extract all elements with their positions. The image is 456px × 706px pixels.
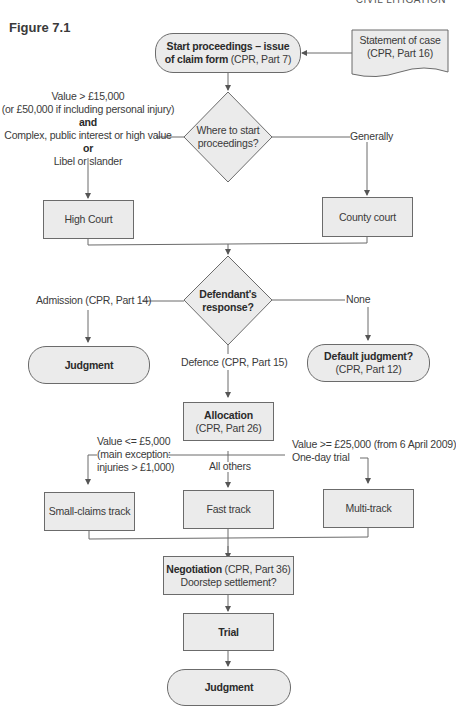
final-judgment-label: Judgment <box>205 681 254 694</box>
negotiation-title: Negotiation <box>166 563 222 575</box>
generally-label: Generally <box>350 130 393 143</box>
small-criteria-line2: (main exception: <box>97 448 174 461</box>
small-criteria-line1: Value <= £5,000 <box>97 435 174 448</box>
county-court-label: County court <box>339 211 396 224</box>
trial-label: Trial <box>218 626 239 639</box>
criteria-line3: Complex, public interest or high value <box>0 129 176 142</box>
defendant-line2: response? <box>184 301 272 314</box>
high-court-criteria-label: Value > £15,000 (or £50,000 if including… <box>0 90 176 168</box>
start-bold-2: of claim form <box>165 53 228 65</box>
default-judgment-node: Default judgment? (CPR, Part 12) <box>307 344 430 382</box>
allocation-ref: (CPR, Part 26) <box>195 422 261 435</box>
judgment-left-label: Judgment <box>65 359 114 372</box>
defence-label: Defence (CPR, Part 15) <box>181 356 287 369</box>
start-proceedings-node: Start proceedings – issue of claim form … <box>155 33 301 73</box>
allocation-node: Allocation (CPR, Part 26) <box>183 402 274 441</box>
high-court-node: High Court <box>43 200 134 239</box>
defendant-line1: Defendant's <box>184 288 272 301</box>
admission-label: Admission (CPR, Part 14) <box>36 294 151 307</box>
fast-track-node: Fast track <box>183 490 274 529</box>
negotiation-line2: Doorstep settlement? <box>181 576 277 589</box>
statement-of-case-node: Statement of case (CPR, Part 16) <box>352 34 448 60</box>
small-claims-track-node: Small-claims track <box>44 492 135 531</box>
negotiation-node: Negotiation (CPR, Part 36) Doorstep sett… <box>163 556 294 595</box>
multi-criteria-line1: Value >= £25,000 (from 6 April 2009) <box>292 438 456 451</box>
all-others-label: All others <box>209 460 251 473</box>
final-judgment-node: Judgment <box>167 669 291 706</box>
allocation-title: Allocation <box>204 409 253 422</box>
multi-track-label: Multi-track <box>345 502 391 515</box>
multi-criteria-line2: One-day trial <box>292 451 456 464</box>
high-court-label: High Court <box>64 213 112 226</box>
small-claims-label: Small-claims track <box>49 505 131 518</box>
default-judgment-title: Default judgment? <box>324 350 413 363</box>
criteria-line4: Libel or slander <box>0 155 176 168</box>
where-line1: Where to start <box>184 124 272 137</box>
statement-line2: (CPR, Part 16) <box>352 47 448 60</box>
default-judgment-ref: (CPR, Part 12) <box>335 363 401 376</box>
county-court-node: County court <box>322 197 413 237</box>
criteria-line1: Value > £15,000 <box>0 90 176 103</box>
where-to-start-decision: Where to start proceedings? <box>184 124 272 150</box>
small-criteria-line3: injuries > £1,000) <box>97 461 174 474</box>
start-ref: (CPR, Part 7) <box>231 53 291 65</box>
trial-node: Trial <box>183 613 274 651</box>
multi-track-criteria-label: Value >= £25,000 (from 6 April 2009) One… <box>292 438 456 464</box>
statement-line1: Statement of case <box>352 34 448 47</box>
none-label: None <box>346 293 370 306</box>
multi-track-node: Multi-track <box>323 489 414 528</box>
fast-track-label: Fast track <box>206 503 250 516</box>
judgment-node-admission: Judgment <box>28 346 150 384</box>
defendant-response-decision: Defendant's response? <box>184 288 272 314</box>
criteria-line2: (or £50,000 if including personal injury… <box>0 103 176 116</box>
start-bold-1: Start proceedings – issue <box>167 40 290 52</box>
criteria-and: and <box>0 116 176 129</box>
negotiation-ref: (CPR, Part 36) <box>225 563 291 575</box>
criteria-or: or <box>0 142 176 155</box>
where-line2: proceedings? <box>184 137 272 150</box>
small-claims-criteria-label: Value <= £5,000 (main exception: injurie… <box>97 435 174 474</box>
